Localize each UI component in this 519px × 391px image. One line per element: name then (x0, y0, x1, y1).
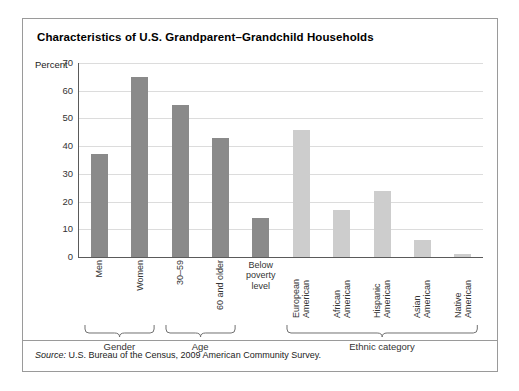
group-bracket: Ethnic category (286, 325, 478, 338)
x-category-label: Below poverty level (239, 260, 283, 291)
group-bracket: Age (165, 325, 236, 338)
bar (454, 254, 471, 257)
bar (172, 105, 189, 257)
x-category-label: Asian American (412, 260, 434, 318)
x-category-label: 60 and older (215, 260, 225, 310)
axis-baseline (79, 257, 483, 258)
x-category-label: 30–59 (175, 260, 185, 285)
x-category-label: African American (332, 260, 354, 318)
group-bracket: Gender (84, 325, 155, 338)
y-axis-tick-marks (23, 63, 83, 257)
x-category-label: Men (94, 260, 104, 278)
x-category-label: Women (135, 260, 145, 291)
x-category-label: European American (291, 260, 313, 318)
source-keyword: Source: (35, 350, 66, 360)
figure-frame: Characteristics of U.S. Grandparent–Gran… (22, 18, 498, 372)
source-note: Source: U.S. Bureau of the Census, 2009 … (35, 350, 321, 360)
bar (333, 210, 350, 257)
bar (91, 154, 108, 257)
bar (374, 191, 391, 258)
bar (414, 240, 431, 257)
x-category-label: Native American (453, 260, 475, 318)
x-category-label: Hispanic American (372, 260, 394, 318)
bar (252, 218, 269, 257)
category-labels: MenWomen30–5960 and olderBelow poverty l… (79, 260, 483, 322)
bar (212, 138, 229, 257)
bar (293, 130, 310, 257)
plot-area (79, 63, 483, 257)
page-title: Characteristics of U.S. Grandparent–Gran… (37, 31, 374, 43)
bars-layer (79, 63, 483, 257)
bar (131, 77, 148, 257)
source-divider (23, 340, 497, 341)
source-text: U.S. Bureau of the Census, 2009 American… (66, 350, 321, 360)
